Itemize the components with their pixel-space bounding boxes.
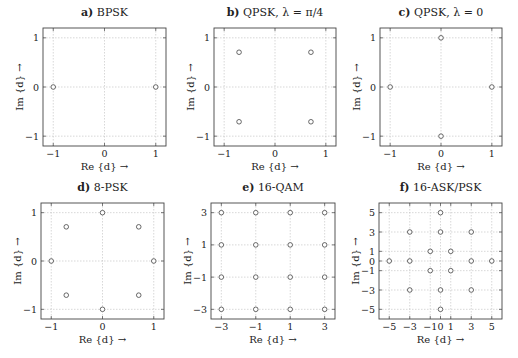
x-tick-label: 0 — [437, 321, 443, 332]
constellation-point — [407, 259, 412, 264]
x-tick-label: 5 — [489, 321, 495, 332]
plot-area: −5−3−10135−5−3−10135Re {d} →Im {d} → — [0, 0, 518, 358]
constellation-point — [448, 268, 453, 273]
constellation-point — [407, 288, 412, 293]
constellation-point — [469, 259, 474, 264]
constellation-point — [428, 268, 433, 273]
y-tick-label: 1 — [369, 246, 375, 257]
constellation-point — [469, 288, 474, 293]
y-axis-label: Im {d} → — [350, 237, 361, 285]
constellation-point — [469, 230, 474, 235]
constellation-point — [438, 307, 443, 312]
constellation-point — [489, 259, 494, 264]
constellation-point — [438, 210, 443, 215]
x-tick-label: 3 — [468, 321, 474, 332]
y-tick-label: −1 — [361, 265, 375, 276]
x-tick-label: −5 — [382, 321, 396, 332]
y-tick-label: −3 — [361, 285, 375, 296]
constellation-point — [387, 259, 392, 264]
y-tick-label: 3 — [369, 227, 375, 238]
constellation-point — [407, 230, 412, 235]
constellation-point — [438, 288, 443, 293]
constellation-point — [448, 249, 453, 254]
constellation-point — [428, 249, 433, 254]
x-tick-label: −1 — [423, 321, 437, 332]
constellation-point — [438, 230, 443, 235]
y-tick-label: −5 — [361, 304, 375, 315]
x-tick-label: −3 — [403, 321, 417, 332]
y-tick-label: 5 — [369, 207, 375, 218]
x-tick-label: 1 — [448, 321, 454, 332]
x-axis-label: Re {d} → — [417, 334, 465, 345]
y-tick-label: 0 — [369, 256, 375, 267]
grid-lines — [379, 203, 502, 319]
